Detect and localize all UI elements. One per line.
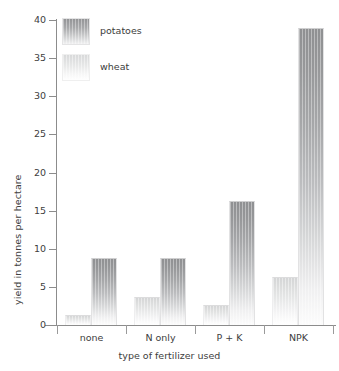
- bar-fill: [203, 305, 229, 325]
- x-axis-label-none: none: [57, 332, 126, 343]
- x-axis-label-npk: NPK: [264, 332, 333, 343]
- x-axis-separator: [57, 325, 58, 334]
- legend-label-potatoes: potatoes: [100, 25, 142, 36]
- bar-potatoes-none: [91, 258, 117, 325]
- x-axis-title: type of fertilizer used: [0, 350, 339, 361]
- x-axis-separator: [195, 325, 196, 334]
- x-axis-label-n-only: N only: [126, 332, 195, 343]
- bar-chart: yield in tonnes per hectare 051015202530…: [0, 0, 339, 371]
- bars-layer: [0, 0, 339, 371]
- bar-wheat-p-k: [203, 305, 229, 325]
- wheat-swatch-icon: [62, 54, 90, 81]
- bar-fill: [272, 277, 298, 325]
- x-axis-separator: [126, 325, 127, 334]
- bar-wheat-npk: [272, 277, 298, 325]
- bar-potatoes-npk: [298, 28, 324, 325]
- bar-fill: [298, 28, 324, 325]
- bar-potatoes-n-only: [160, 258, 186, 325]
- bar-potatoes-p-k: [229, 201, 255, 325]
- legend-label-wheat: wheat: [100, 61, 129, 72]
- x-axis-label-p-k: P + K: [195, 332, 264, 343]
- bar-fill: [134, 297, 160, 325]
- bar-fill: [229, 201, 255, 325]
- x-axis-separator: [333, 325, 334, 334]
- x-axis-separator: [264, 325, 265, 334]
- potatoes-swatch-icon: [62, 18, 90, 45]
- bar-fill: [91, 258, 117, 325]
- bar-wheat-n-only: [134, 297, 160, 325]
- bar-fill: [65, 315, 91, 325]
- bar-fill: [160, 258, 186, 325]
- bar-wheat-none: [65, 315, 91, 325]
